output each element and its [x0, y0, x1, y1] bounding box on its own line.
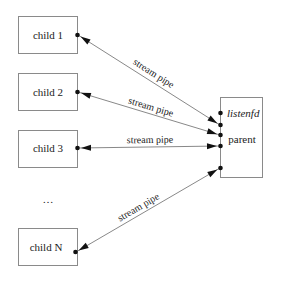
- listenfd-dot: [218, 111, 223, 116]
- ellipsis: …: [43, 193, 54, 205]
- child-box-2: child 2: [19, 74, 78, 111]
- child-1-endpoint-dot: [75, 33, 80, 38]
- child-2-label: child 2: [33, 86, 63, 98]
- pipe-2: [78, 92, 220, 135]
- parent-label: parent: [228, 133, 255, 145]
- pipe-1-arrowhead-child-end: [81, 37, 91, 45]
- pipe-3-arrowhead-parent-end: [207, 143, 217, 149]
- listenfd-label: listenfd: [227, 107, 260, 119]
- pipe-2-arrowhead-parent-end: [207, 128, 217, 134]
- pipe-n-label: stream pipe: [115, 190, 161, 223]
- pipe-3-label: stream pipe: [127, 134, 174, 146]
- pipe-n: [76, 168, 220, 252]
- child-n-label: child N: [30, 241, 63, 253]
- pipe-n-arrowhead-parent-end: [207, 170, 217, 178]
- diagram-canvas: child 1 child 2 child 3 … child N listen…: [0, 0, 292, 281]
- child-3-endpoint-dot: [75, 146, 80, 151]
- pipe-1-arrowhead-parent-end: [207, 116, 217, 124]
- child-box-n: child N: [19, 229, 78, 266]
- pipe-2-label: stream pipe: [127, 95, 175, 119]
- child-box-1: child 1: [19, 17, 78, 54]
- parent-endpoint-dot-1: [218, 123, 223, 128]
- pipe-3: [78, 146, 220, 148]
- child-n-endpoint-dot: [73, 250, 78, 255]
- parent-endpoint-dot-2: [218, 133, 223, 138]
- child-2-endpoint-dot: [75, 90, 80, 95]
- pipe-2-arrowhead-child-end: [81, 93, 91, 99]
- pipe-3-arrowhead-child-end: [81, 145, 91, 151]
- child-box-3: child 3: [19, 131, 78, 168]
- parent-box: listenfd parent: [221, 98, 263, 178]
- parent-endpoint-dot-n: [218, 166, 223, 171]
- diagram-svg: child 1 child 2 child 3 … child N listen…: [0, 0, 292, 281]
- child-3-label: child 3: [33, 142, 64, 154]
- child-1-label: child 1: [33, 29, 63, 41]
- pipe-n-arrowhead-child-end: [79, 243, 89, 251]
- parent-endpoint-dot-3: [218, 144, 223, 149]
